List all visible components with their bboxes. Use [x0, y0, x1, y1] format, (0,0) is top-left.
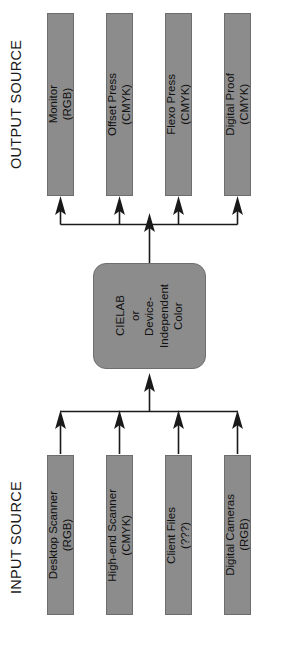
arrowhead-to-digital-proof [234, 199, 242, 213]
input-source-section-label: INPUT SOURCE [8, 460, 24, 615]
arrowhead-digital-cameras [234, 413, 242, 427]
input-node-digital-cameras-label: Digital Cameras (RGB) [224, 494, 251, 576]
output-node-monitor: Monitor (RGB) [47, 13, 74, 196]
arrowhead-desktop-scanner [57, 413, 65, 427]
hub-node-label: CIELAB or Device- Independent Color [113, 284, 186, 348]
arrowhead-to-offset-press [116, 199, 124, 213]
output-node-monitor-label: Monitor (RGB) [47, 85, 74, 123]
output-node-flexo-press-label: Flexo Press (CMYK) [165, 74, 192, 135]
input-node-client-files-label: Client Files (???) [165, 507, 192, 564]
input-node-digital-cameras: Digital Cameras (RGB) [224, 455, 251, 615]
arrowhead-client-files [175, 413, 183, 427]
input-node-client-files: Client Files (???) [165, 455, 192, 615]
arrowhead-to-flexo-press [175, 199, 183, 213]
arrowhead-hub-to-output-bus [146, 216, 154, 230]
arrowhead-input-bus-to-hub [146, 376, 154, 390]
input-node-high-end-scanner-label: High-end Scanner (CMYK) [106, 489, 133, 582]
input-node-desktop-scanner: Desktop Scanner (RGB) [47, 455, 74, 615]
output-node-offset-press: Offset Press (CMYK) [106, 13, 133, 196]
input-node-high-end-scanner: High-end Scanner (CMYK) [106, 455, 133, 615]
output-node-flexo-press: Flexo Press (CMYK) [165, 13, 192, 196]
hub-node-cielab-device-independent-color: CIELAB or Device- Independent Color [93, 263, 206, 369]
color-management-diagram: OUTPUT SOURCE Monitor (RGB) Offset Press… [0, 0, 293, 647]
arrowhead-high-end-scanner [116, 413, 124, 427]
output-node-digital-proof: Digital Proof (CMYK) [224, 13, 251, 196]
arrowhead-to-monitor [57, 199, 65, 213]
output-node-offset-press-label: Offset Press (CMYK) [106, 73, 133, 136]
output-source-section-label: OUTPUT SOURCE [8, 13, 24, 196]
input-node-desktop-scanner-label: Desktop Scanner (RGB) [47, 491, 74, 579]
output-node-digital-proof-label: Digital Proof (CMYK) [224, 73, 251, 136]
